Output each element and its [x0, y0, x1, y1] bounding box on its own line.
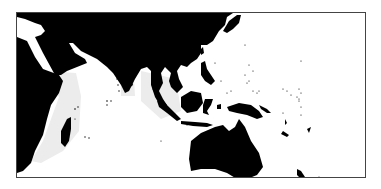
philippines — [201, 61, 215, 85]
sulawesi — [203, 99, 213, 115]
australia — [189, 119, 263, 178]
map-canvas — [17, 13, 366, 178]
new-guinea — [227, 103, 263, 119]
borneo — [181, 91, 203, 113]
map-frame — [16, 12, 366, 178]
new-zealand — [297, 169, 305, 178]
java — [181, 121, 213, 127]
taiwan — [201, 47, 204, 55]
